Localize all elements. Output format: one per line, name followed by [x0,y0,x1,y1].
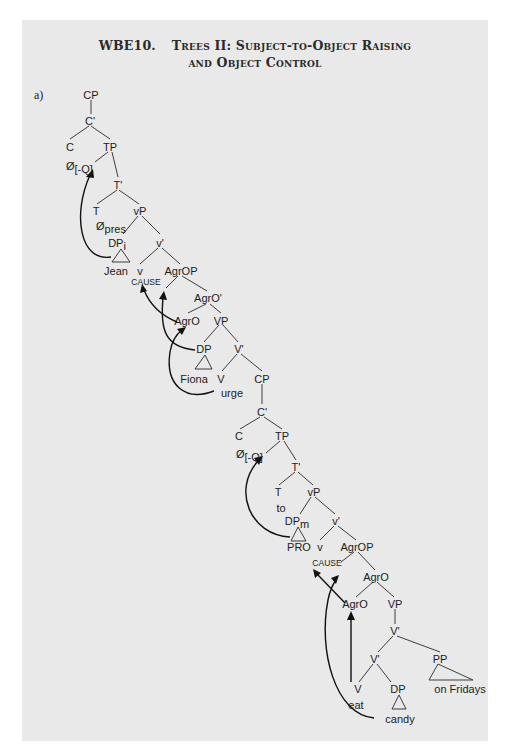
node-dp-subject: DPm [285,515,309,530]
node-dp-subject: DPi [108,237,126,252]
node-agro-bar: AgrO' [194,292,222,304]
node-agro-bar: AgrO [363,571,389,583]
node-vp-little: vP [134,205,147,217]
node-dp-object: DP [196,343,211,355]
null-complementizer: Ø[-Q] [236,448,263,463]
arrow-subject-raising-embedded [246,461,290,537]
node-tp: TP [103,141,117,153]
word-candy: candy [385,713,415,725]
word-to: to [276,502,285,514]
triangle-fiona [195,355,212,369]
null-complementizer: Ø[-Q] [66,160,93,175]
node-vp: VP [388,598,403,610]
triangle-candy [392,695,406,709]
node-vp-little: vP [308,486,321,498]
triangle-jean [112,249,130,262]
node-cp: CP [83,89,98,101]
node-c: C [235,430,243,442]
tree-branches-matrix [70,100,262,404]
phrase-on-fridays: on Fridays [434,683,486,695]
node-v-bar: v' [332,515,340,527]
node-tp: TP [275,430,289,442]
tree-branches-embedded [240,417,473,709]
node-labels-embedded: C' C Ø[-Q] TP T' T to vP DPm v' PRO v CA… [235,406,486,725]
node-v-bar: v' [156,237,164,249]
node-vp: VP [214,315,229,327]
word-cause: CAUSE [312,558,342,568]
node-agro: AgrO [174,315,200,327]
node-pp: PP [433,653,448,665]
node-t: T [93,205,100,217]
node-v: v [317,541,323,553]
node-dp-object: DP [390,683,405,695]
word-jean: Jean [104,265,128,277]
word-pro: PRO [287,541,311,553]
null-tense: Øpres [96,220,126,235]
node-c-bar: C' [257,406,267,418]
node-verb: V [354,683,362,695]
arrowhead [159,291,167,300]
word-fiona: Fiona [180,373,208,385]
word-eat: eat [348,699,363,711]
node-verb: V [217,373,225,385]
node-labels-matrix: CP C' C Ø[-Q] TP T' T Øpres vP DPi v' Je… [66,89,270,399]
arrowhead [347,611,355,620]
node-v-bar-upper: V' [390,625,399,637]
node-t: T [275,486,282,498]
node-c: C [66,141,74,153]
word-cause: CAUSE [131,277,161,287]
node-agrop: AgrOP [164,265,197,277]
node-agro: AgrO [342,598,368,610]
node-v-bar-lower: V' [370,653,379,665]
triangle-pp [429,664,473,680]
node-agrop: AgrOP [340,541,373,553]
node-t-bar: T' [292,461,301,473]
node-c-bar: C' [85,115,95,127]
syntax-tree: CP C' C Ø[-Q] TP T' T Øpres vP DPi v' Je… [0,0,511,756]
arrowhead [331,575,339,584]
arrow-agro-to-v-matrix [144,290,177,322]
word-urge: urge [221,387,243,399]
node-cp-embedded: CP [254,373,269,385]
node-t-bar: T' [114,179,123,191]
node-v-bar-big: V' [234,343,243,355]
node-v: v [137,265,143,277]
